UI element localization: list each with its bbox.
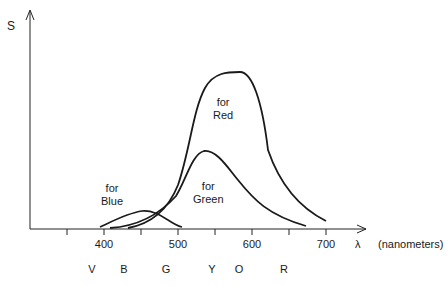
tick-label-700: 700 (317, 238, 335, 250)
y-axis-label: S (7, 20, 15, 33)
x-axis-symbol: λ (355, 238, 361, 251)
x-ticks (67, 229, 326, 235)
color-label-o: O (235, 263, 244, 275)
color-label-v: V (88, 263, 95, 275)
label-red-line2: Red (213, 109, 233, 122)
tick-label-600: 600 (243, 238, 261, 250)
label-blue: for Blue (101, 182, 123, 208)
label-green-line2: Green (193, 193, 224, 206)
color-label-b: B (120, 263, 127, 275)
color-label-r: R (280, 263, 288, 275)
color-label-y: Y (208, 263, 215, 275)
label-green: for Green (193, 180, 224, 206)
label-red: for Red (213, 96, 233, 122)
label-red-line1: for (213, 96, 233, 109)
label-blue-line1: for (101, 182, 123, 195)
x-axis-unit: (nanometers) (378, 238, 443, 251)
tick-label-500: 500 (169, 238, 187, 250)
tick-label-400: 400 (95, 238, 113, 250)
label-green-line1: for (193, 180, 224, 193)
label-blue-line2: Blue (101, 195, 123, 208)
color-label-g: G (162, 263, 171, 275)
